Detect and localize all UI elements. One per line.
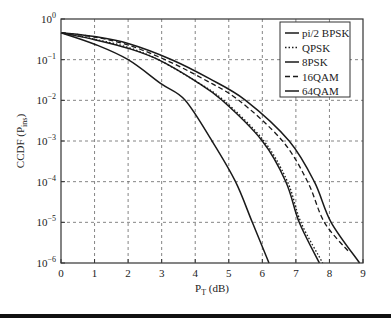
y-tick-label: 10−3 [36,133,56,147]
x-tick-label: 5 [226,267,232,279]
x-tick-label: 8 [327,267,333,279]
x-tick-label: 6 [260,267,266,279]
x-axis-title: PT (dB) [195,282,229,297]
x-tick-label: 0 [58,267,64,279]
legend-label: pi/2 BPSK [302,27,349,39]
x-tick-label: 2 [125,267,131,279]
y-tick-label: 10−6 [36,255,56,269]
y-tick-label: 10−5 [36,214,56,228]
legend-label: 8PSK [302,56,328,68]
y-tick-label: 10−2 [36,92,56,106]
x-tick-label: 1 [92,267,98,279]
x-tick-label: 4 [192,267,198,279]
y-tick-label: 10−4 [36,174,56,188]
legend-label: QPSK [302,42,330,54]
legend-label: 16QAM [302,71,339,83]
legend: pi/2 BPSKQPSK8PSK16QAM64QAM [280,22,350,97]
ccdf-chart: 0123456789 10010−110−210−310−410−510−6 P… [0,0,391,318]
series-pi-2-bpsk [61,33,269,263]
x-tick-label: 3 [159,267,165,279]
x-tick-label: 9 [360,267,366,279]
bottom-border [0,314,391,318]
y-tick-label: 10−1 [36,52,56,66]
legend-label: 64QAM [302,85,339,97]
x-axis-ticks: 0123456789 [58,259,366,279]
y-tick-label: 100 [41,11,56,25]
y-axis-title: CCDF (Pins) [14,114,29,169]
x-tick-label: 7 [293,267,299,279]
